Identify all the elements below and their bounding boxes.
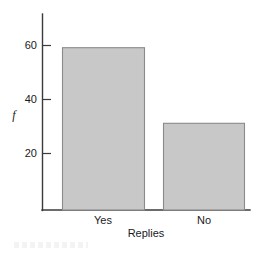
- x-tick-label-yes: Yes: [94, 214, 112, 226]
- bar-yes[interactable]: [63, 48, 145, 210]
- x-axis-title: Replies: [128, 227, 165, 239]
- y-tick-label-20: 20: [25, 147, 37, 159]
- y-axis-title: f: [12, 108, 17, 122]
- bar-chart: 60 40 20 f Yes No Replies: [0, 0, 277, 254]
- y-tick-label-60: 60: [25, 39, 37, 51]
- x-tick-label-no: No: [197, 214, 211, 226]
- y-tick-label-40: 40: [25, 93, 37, 105]
- figure-container: 60 40 20 f Yes No Replies: [0, 0, 277, 254]
- bar-no[interactable]: [164, 123, 245, 210]
